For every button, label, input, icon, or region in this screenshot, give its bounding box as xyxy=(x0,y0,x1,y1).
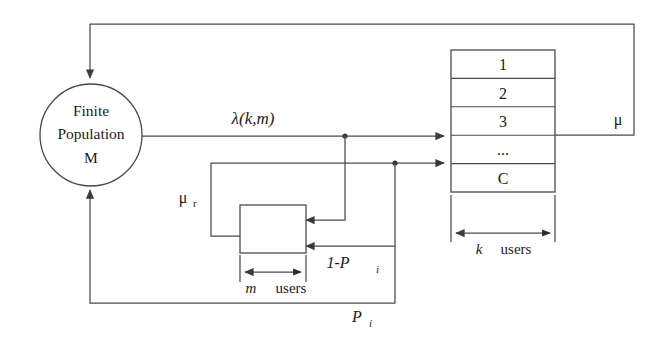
population-label-line2: Population xyxy=(57,125,124,142)
arrival-to-retrial-branch-path xyxy=(306,136,345,220)
service-rate-label: μ xyxy=(614,111,623,129)
diagram-canvas: Finite Population M 1 2 3 ... C λ(k,m) μ… xyxy=(0,0,668,352)
success-probability-label: P i xyxy=(351,308,372,329)
server-cell-c: C xyxy=(498,170,509,187)
m-users-dimension xyxy=(240,255,306,282)
retrial-rate-sub: r xyxy=(193,197,197,209)
diagram-svg: Finite Population M 1 2 3 ... C λ(k,m) μ… xyxy=(0,0,668,352)
k-users-dimension xyxy=(451,195,555,242)
retrial-rate-mu: μ xyxy=(179,189,188,207)
success-prob-sub: i xyxy=(369,317,372,329)
blocking-probability-label: 1-P i xyxy=(326,254,379,275)
success-prob-main: P xyxy=(351,308,362,325)
m-users-word: users xyxy=(276,280,307,296)
blocked-return-path xyxy=(306,163,395,246)
population-label-line3: M xyxy=(84,149,98,166)
population-label-line1: Finite xyxy=(73,102,109,119)
blocking-prob-sub: i xyxy=(376,263,379,275)
blocking-prob-main: 1-P xyxy=(326,254,349,271)
m-users-symbol: m xyxy=(246,280,257,296)
arrival-flow-path xyxy=(142,133,444,138)
m-users-label: m users xyxy=(246,280,307,296)
k-users-symbol: k xyxy=(476,241,483,257)
server-cell-3: 3 xyxy=(499,113,507,130)
arrival-rate-label: λ(k,m) xyxy=(231,109,275,128)
server-cell-ellipsis: ... xyxy=(497,141,509,158)
retrial-box xyxy=(240,205,306,253)
server-cell-1: 1 xyxy=(499,56,507,73)
retrial-rate-label: μ r xyxy=(179,189,197,209)
k-users-word: users xyxy=(501,241,532,257)
k-users-label: k users xyxy=(476,241,532,257)
server-cell-2: 2 xyxy=(499,85,507,102)
